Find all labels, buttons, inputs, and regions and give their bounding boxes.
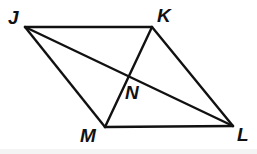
bottom-edge-band <box>0 149 257 154</box>
segment-side-ML <box>105 126 233 127</box>
vertex-label-l: L <box>237 125 249 144</box>
vertex-label-j: J <box>8 8 19 27</box>
parallelogram-diagram-svg <box>0 0 257 154</box>
geometry-figure: J K N M L <box>0 0 257 154</box>
vertex-label-k: K <box>157 6 171 25</box>
segment-side-JM <box>25 27 105 127</box>
vertex-label-m: M <box>80 126 96 145</box>
segment-diagonal-KM <box>105 27 152 127</box>
vertex-label-n: N <box>125 83 139 102</box>
segment-side-KL <box>152 27 233 126</box>
